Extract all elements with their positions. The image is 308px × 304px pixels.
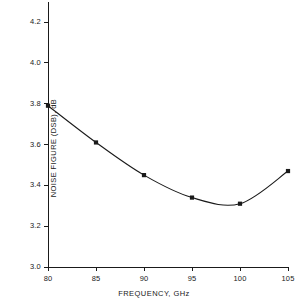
y-tick-label: 3.2: [30, 222, 41, 230]
x-tick-label: 105: [281, 275, 294, 283]
y-axis-title-text: NOISE FIGURE (DSB), dB: [49, 99, 58, 197]
y-tick-label: 3.0: [30, 263, 41, 271]
y-tick-label: 3.6: [30, 141, 41, 149]
axis-lines: [48, 2, 288, 267]
data-point-marker: [238, 202, 242, 206]
y-tick-label: 3.8: [30, 100, 41, 108]
x-tick-label: 95: [188, 275, 197, 283]
data-point-marker: [190, 195, 194, 199]
tick-marks: [44, 22, 288, 271]
x-tick-label: 100: [233, 275, 246, 283]
data-point-marker: [94, 140, 98, 144]
data-markers: [46, 104, 290, 206]
data-point-marker: [286, 169, 290, 173]
y-tick-label: 4.2: [30, 18, 41, 26]
x-tick-label: 85: [92, 275, 101, 283]
data-point-marker: [142, 173, 146, 177]
y-tick-label: 3.4: [30, 182, 41, 190]
noise-figure-chart: 3.03.23.43.63.84.04.2 80859095100105 FRE…: [0, 0, 308, 304]
y-tick-label: 4.0: [30, 59, 41, 67]
x-tick-label: 80: [44, 275, 53, 283]
data-curve: [48, 106, 288, 206]
x-tick-label: 90: [140, 275, 149, 283]
y-axis-title: NOISE FIGURE (DSB), dB: [49, 99, 58, 197]
plot-canvas: [0, 0, 308, 304]
x-axis-title: FREQUENCY, GHz: [0, 289, 308, 298]
